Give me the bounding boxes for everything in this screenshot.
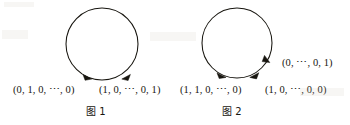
vertex-label-f2-right: (0, ⋯, 0, 1) [282, 58, 333, 69]
vertex-label-f1-right: (1, 0, ⋯, 0, 1) [99, 85, 161, 96]
arrowhead-f1-left [83, 75, 92, 81]
fig2-loop-circle [202, 8, 272, 78]
figure-1-caption: 图 1 [86, 107, 106, 117]
vertex-label-f1-left: (0, 1, 0, ⋯, 0) [13, 85, 75, 96]
figure-1-graph [66, 8, 138, 81]
figure-2-graph [202, 8, 272, 79]
figure-2-caption: 图 2 [222, 107, 242, 117]
vertex-label-f2-bottom: (1, 0, ⋯, 0, 0) [265, 85, 327, 96]
vertex-label-f2-left: (1, 1, 0, ⋯, 0) [180, 85, 242, 96]
arrowhead-f1-right [122, 74, 131, 80]
fig1-loop-circle [66, 8, 138, 80]
